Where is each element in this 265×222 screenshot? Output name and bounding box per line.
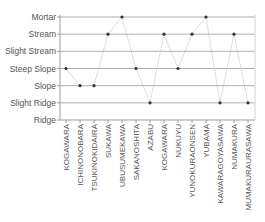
x-tick-label: YUBAMA xyxy=(202,123,211,157)
data-series xyxy=(64,15,249,104)
grid-lines xyxy=(60,17,255,103)
x-tick-label: MUMAKURAURASAWA xyxy=(244,123,253,210)
x-tick-label: ICHINONOBARA xyxy=(76,123,85,185)
data-point-marker xyxy=(78,84,81,87)
data-point-marker xyxy=(232,33,235,36)
x-tick-label: KOGAWARA xyxy=(62,123,71,170)
y-tick-label: Steep Slope xyxy=(10,64,57,74)
x-tick-label: YUNOKURAONSEN xyxy=(188,124,197,198)
data-point-marker xyxy=(120,15,123,18)
data-point-marker xyxy=(64,67,67,70)
x-axis: KOGAWARAICHINONOBARATSUKINOKIDAIRASUKAWA… xyxy=(60,120,255,211)
x-tick-label: SUKAWA xyxy=(104,123,113,158)
y-tick-label: Mortar xyxy=(31,12,56,22)
x-tick-label: KAWARAGOYASAWA xyxy=(216,123,225,203)
data-point-marker xyxy=(246,101,249,104)
series-line xyxy=(66,17,248,103)
y-tick-label: Ridge xyxy=(34,115,56,125)
x-tick-label: AZABU xyxy=(146,124,155,151)
data-point-marker xyxy=(162,33,165,36)
y-tick-label: Slope xyxy=(34,81,56,91)
data-point-marker xyxy=(92,84,95,87)
y-tick-label: Stream xyxy=(29,29,56,39)
y-tick-label: Slight Stream xyxy=(5,46,56,56)
data-point-marker xyxy=(204,15,207,18)
x-tick-label: TSUKINOKIDAIRA xyxy=(90,123,99,191)
x-tick-label: UBUSUMEKAWA xyxy=(118,123,127,187)
data-point-marker xyxy=(176,67,179,70)
data-point-marker xyxy=(218,101,221,104)
y-tick-label: Slight Ridge xyxy=(10,98,56,108)
data-point-marker xyxy=(148,101,151,104)
x-tick-label: NUMAKURA xyxy=(230,123,239,169)
x-tick-label: SAKANOSHITA xyxy=(132,123,141,180)
x-tick-label: KOGAWARA xyxy=(160,123,169,170)
data-point-marker xyxy=(106,33,109,36)
data-point-marker xyxy=(190,33,193,36)
x-tick-label: NUKUYU xyxy=(174,124,183,158)
data-point-marker xyxy=(134,67,137,70)
landform-line-chart: RidgeSlight RidgeSlopeSteep SlopeSlight … xyxy=(0,0,265,222)
